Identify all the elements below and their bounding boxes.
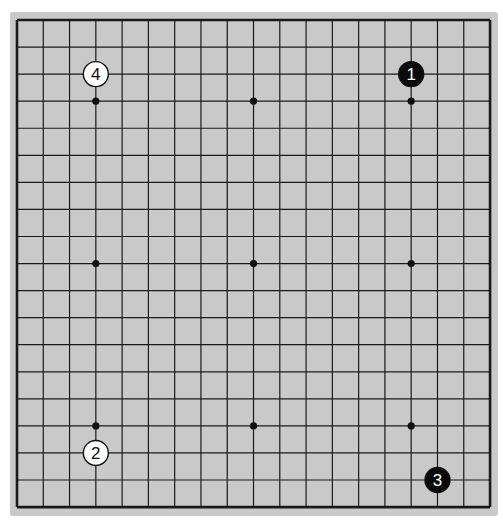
stone-black-1[interactable]: 1	[399, 62, 424, 87]
move-number: 3	[433, 471, 442, 490]
star-point	[92, 98, 99, 105]
star-point	[250, 260, 257, 267]
stone-white-2[interactable]: 2	[83, 440, 108, 465]
stones-layer: 1234	[83, 62, 450, 493]
stone-black-3[interactable]: 3	[425, 468, 450, 493]
star-point	[250, 422, 257, 429]
move-number: 2	[91, 444, 100, 463]
star-point	[92, 422, 99, 429]
star-point	[408, 98, 415, 105]
star-point	[92, 260, 99, 267]
star-point	[408, 422, 415, 429]
move-number: 1	[406, 65, 415, 84]
move-number: 4	[91, 65, 100, 84]
star-point	[250, 98, 257, 105]
stone-white-4[interactable]: 4	[83, 62, 108, 87]
star-point	[408, 260, 415, 267]
go-board[interactable]: 1234	[0, 0, 503, 523]
